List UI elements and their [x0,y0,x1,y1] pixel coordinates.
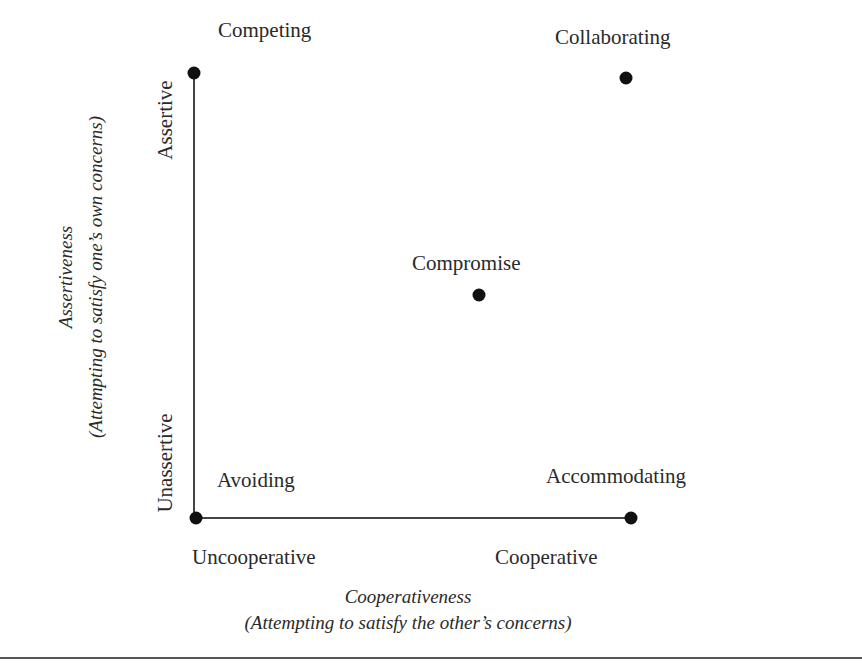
x-tick-cooperative: Cooperative [495,545,598,570]
y-axis-title: Assertiveness [55,226,77,328]
label-compromise: Compromise [412,251,521,276]
point-collaborating [620,72,633,85]
x-tick-uncooperative: Uncooperative [192,545,316,570]
point-competing [188,67,201,80]
label-accommodating: Accommodating [546,464,686,489]
point-accommodating [625,512,638,525]
y-tick-assertive: Assertive [153,80,178,159]
y-axis-line [193,73,195,519]
point-avoiding [190,512,203,525]
y-tick-unassertive: Unassertive [153,413,178,512]
bottom-rule [0,657,862,659]
y-axis-subtitle: (Attempting to satisfy one’s own concern… [85,116,107,438]
x-axis-title: Cooperativeness [345,586,472,608]
label-competing: Competing [218,18,311,43]
label-collaborating: Collaborating [555,25,670,50]
x-axis-subtitle: (Attempting to satisfy the other’s conce… [245,612,572,634]
point-compromise [473,289,486,302]
label-avoiding: Avoiding [217,468,295,493]
x-axis-line [195,517,631,519]
